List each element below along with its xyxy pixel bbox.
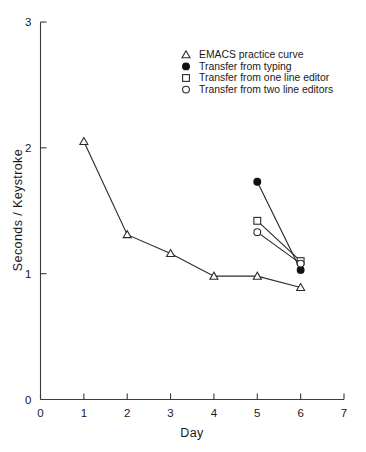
series-line-0	[84, 142, 301, 288]
x-tick-label-6: 6	[297, 407, 303, 419]
data-point-2-0	[254, 217, 261, 224]
x-axis-ticks: 01234567	[37, 394, 347, 419]
y-axis-ticks: 0123	[25, 16, 46, 406]
legend-marker-2	[183, 75, 190, 82]
y-tick-label-3: 3	[25, 16, 31, 28]
chart-legend: EMACS practice curveTransfer from typing…	[182, 49, 333, 95]
legend-marker-3	[183, 86, 190, 93]
data-point-0-2	[167, 250, 175, 257]
x-tick-label-0: 0	[37, 407, 43, 419]
legend-label-1: Transfer from typing	[199, 61, 292, 72]
data-point-0-0	[80, 138, 88, 145]
legend-label-3: Transfer from two line editors	[199, 84, 333, 95]
data-point-0-1	[123, 231, 131, 238]
x-tick-label-2: 2	[124, 407, 130, 419]
series-markers	[80, 138, 305, 291]
series-lines	[84, 142, 301, 288]
data-point-1-0	[254, 178, 261, 185]
y-axis-title: Seconds / Keystroke	[11, 149, 25, 271]
x-tick-label-4: 4	[211, 407, 218, 419]
legend-marker-0	[182, 51, 190, 58]
x-tick-label-3: 3	[167, 407, 173, 419]
x-axis-title: Day	[180, 426, 204, 440]
y-tick-label-0: 0	[25, 394, 31, 406]
x-tick-label-7: 7	[341, 407, 347, 419]
y-tick-label-1: 1	[25, 268, 31, 280]
y-tick-label-2: 2	[25, 142, 31, 154]
series-line-3	[257, 232, 300, 263]
chart-canvas: 0123 01234567 Day Seconds / Keystroke EM…	[0, 0, 366, 452]
data-point-3-1	[297, 260, 304, 267]
practice-curve-chart: 0123 01234567 Day Seconds / Keystroke EM…	[0, 0, 366, 452]
series-line-1	[257, 182, 300, 270]
legend-marker-1	[183, 63, 190, 70]
legend-label-2: Transfer from one line editor	[199, 72, 330, 83]
x-tick-label-1: 1	[81, 407, 87, 419]
legend-label-0: EMACS practice curve	[199, 49, 304, 60]
x-tick-label-5: 5	[254, 407, 260, 419]
data-point-3-0	[254, 229, 261, 236]
